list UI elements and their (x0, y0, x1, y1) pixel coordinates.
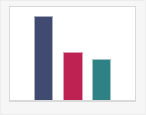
bar-series-3 (92, 59, 111, 101)
bar-series-2 (63, 52, 82, 101)
chart-figure (0, 0, 146, 115)
x-axis-baseline (10, 100, 135, 101)
plot-area (9, 6, 136, 102)
bars-layer (10, 7, 135, 101)
bar-series-1 (34, 16, 53, 101)
